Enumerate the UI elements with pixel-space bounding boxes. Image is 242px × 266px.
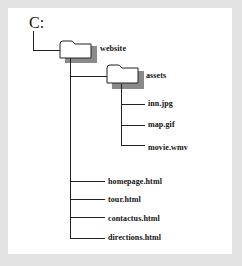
folder-icon-website [59,40,99,64]
connector-movie [121,145,145,146]
connector-map [121,125,145,126]
connector-root-vertical [33,31,34,51]
folder-icon-assets [106,64,146,90]
file-label-inn: inn.jpg [148,100,173,108]
file-label-movie: movie.wmv [148,144,188,152]
connector-root-horizontal [33,50,60,51]
connector-assets-trunk [121,84,122,146]
folder-label-website: website [100,45,126,53]
connector-inn [121,104,145,105]
file-label-contactus: contactus.html [108,215,160,223]
connector-directions [70,238,105,239]
connector-tour [70,199,105,200]
file-label-tour: tour.html [108,196,141,204]
connector-website-trunk [70,58,71,239]
file-label-directions: directions.html [108,234,161,242]
connector-homepage [70,181,105,182]
connector-contactus [70,217,105,218]
drive-label: C: [29,15,44,31]
file-label-map: map.gif [148,121,175,129]
folder-label-assets: assets [146,72,166,80]
connector-assets-branch [70,76,107,77]
file-label-homepage: homepage.html [108,178,162,186]
